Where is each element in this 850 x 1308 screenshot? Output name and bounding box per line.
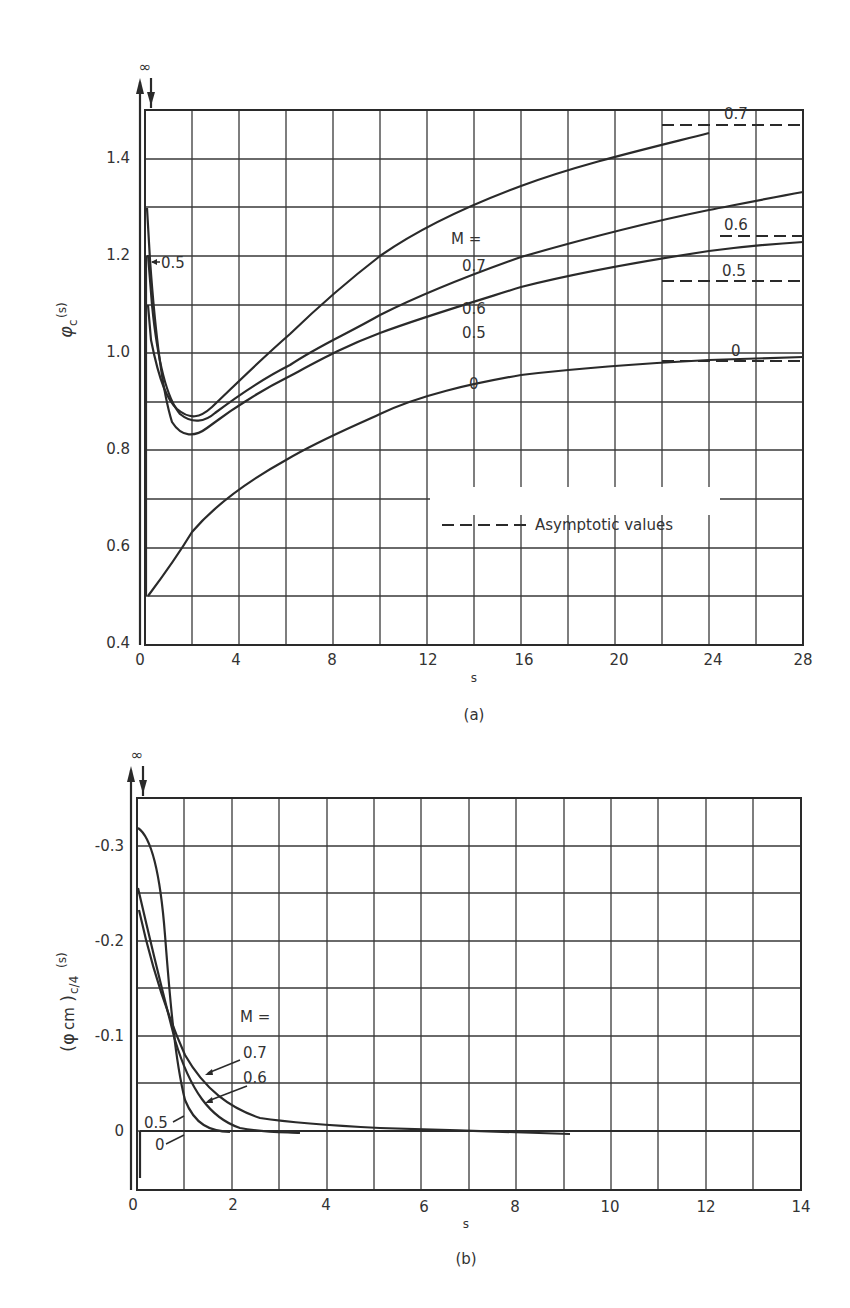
svg-text:-0.1: -0.1 bbox=[95, 1027, 124, 1045]
chart-a-labels: M = 0.7 0.6 0.5 0 0.7 0.6 0.5 0 0.5 Asym… bbox=[151, 105, 748, 534]
svg-text:6: 6 bbox=[419, 1198, 429, 1216]
label-m-0.7: 0.7 bbox=[462, 257, 486, 275]
label-m-0: 0 bbox=[469, 375, 479, 393]
svg-text:(s): (s) bbox=[55, 952, 69, 968]
figure-canvas: ∞ M = 0.7 0.6 0.5 0 bbox=[0, 0, 850, 1308]
asym-label-0.5: 0.5 bbox=[722, 262, 746, 280]
svg-text:c: c bbox=[66, 319, 80, 326]
legend-title: M = bbox=[240, 1008, 270, 1026]
svg-text:0.4: 0.4 bbox=[106, 634, 130, 652]
svg-text:8: 8 bbox=[327, 651, 337, 669]
svg-text:28: 28 bbox=[793, 651, 812, 669]
svg-text:12: 12 bbox=[418, 651, 437, 669]
asym-label-0.6: 0.6 bbox=[724, 216, 748, 234]
legend-title: M = bbox=[451, 230, 481, 248]
svg-text:10: 10 bbox=[600, 1198, 619, 1216]
asym-label-0.7: 0.7 bbox=[724, 105, 748, 123]
svg-text:1.0: 1.0 bbox=[106, 343, 130, 361]
svg-text:): ) bbox=[57, 995, 78, 1002]
chart-a-caption: (a) bbox=[464, 706, 485, 724]
start-label-0.5: 0.5 bbox=[161, 254, 185, 272]
chart-a-yticks: 1.4 1.2 1.0 0.8 0.6 0.4 bbox=[106, 149, 130, 652]
chart-a-ylabel: φ c (s) bbox=[55, 302, 80, 338]
label-m-0.6: 0.6 bbox=[462, 300, 486, 318]
svg-text:0: 0 bbox=[135, 651, 145, 669]
label-m-0.6: 0.6 bbox=[243, 1069, 267, 1087]
svg-text:φ: φ bbox=[55, 326, 76, 338]
svg-text:0: 0 bbox=[114, 1122, 124, 1140]
label-m-0.7: 0.7 bbox=[243, 1044, 267, 1062]
curve-m-0.7 bbox=[148, 133, 709, 416]
infinity-label: ∞ bbox=[131, 746, 144, 764]
svg-text:cm: cm bbox=[60, 1007, 78, 1030]
svg-text:14: 14 bbox=[791, 1198, 810, 1216]
svg-text:4: 4 bbox=[231, 651, 241, 669]
svg-text:c/4: c/4 bbox=[67, 976, 81, 994]
svg-text:4: 4 bbox=[321, 1196, 331, 1214]
svg-text:0.6: 0.6 bbox=[106, 537, 130, 555]
svg-text:-0.2: -0.2 bbox=[95, 932, 124, 950]
chart-b-xlabel: s bbox=[463, 1217, 469, 1231]
label-m-0.5: 0.5 bbox=[462, 324, 486, 342]
svg-text:8: 8 bbox=[510, 1198, 520, 1216]
asym-label-0: 0 bbox=[731, 342, 741, 360]
svg-text:2: 2 bbox=[228, 1196, 238, 1214]
svg-text:24: 24 bbox=[703, 651, 722, 669]
label-m-0: 0 bbox=[155, 1136, 165, 1154]
svg-text:20: 20 bbox=[609, 651, 628, 669]
chart-b-xticks: 0 2 4 6 8 10 12 14 bbox=[128, 1196, 810, 1216]
svg-text:-0.3: -0.3 bbox=[95, 837, 124, 855]
svg-text:0: 0 bbox=[128, 1196, 138, 1214]
label-m-0.5: 0.5 bbox=[144, 1114, 168, 1132]
svg-text:16: 16 bbox=[514, 651, 533, 669]
svg-text:(s): (s) bbox=[55, 302, 69, 318]
chart-b-yticks: -0.3 -0.2 -0.1 0 bbox=[95, 837, 124, 1140]
svg-text:(φ: (φ bbox=[57, 1033, 78, 1052]
svg-text:12: 12 bbox=[696, 1198, 715, 1216]
svg-text:1.2: 1.2 bbox=[106, 246, 130, 264]
svg-text:0.8: 0.8 bbox=[106, 440, 130, 458]
chart-b-ylabel: (φ cm ) c/4 (s) bbox=[55, 952, 81, 1052]
chart-b-caption: (b) bbox=[455, 1250, 476, 1268]
chart-a-xticks: 0 4 8 12 16 20 24 28 bbox=[135, 651, 812, 669]
asymptotic-values-label: Asymptotic values bbox=[535, 516, 673, 534]
svg-text:1.4: 1.4 bbox=[106, 149, 130, 167]
chart-a: ∞ M = 0.7 0.6 0.5 0 bbox=[55, 58, 813, 724]
infinity-label: ∞ bbox=[139, 58, 152, 76]
chart-b: ∞ M = 0.7 0.6 0.5 0 -0.3 bbox=[55, 746, 811, 1268]
chart-a-xlabel: s bbox=[471, 671, 477, 685]
